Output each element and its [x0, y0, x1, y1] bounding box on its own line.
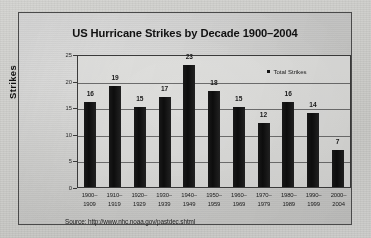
x-axis-labels: 1900–19091910–19191920–19291930–19391940… [77, 191, 351, 208]
y-axis-tick-mark [73, 82, 77, 83]
y-axis-tick-label: 25 [58, 52, 72, 58]
x-axis-tick-label: 1920–1929 [127, 191, 152, 208]
y-axis-label: Strikes [7, 65, 18, 99]
bar-cell: 14 [301, 56, 326, 187]
bar-cell: 16 [276, 56, 301, 187]
x-axis-tick-label: 1910–1919 [102, 191, 127, 208]
bar-value-label: 14 [309, 101, 316, 108]
legend-swatch-icon [267, 70, 270, 73]
y-axis-tick-mark [73, 135, 77, 136]
bar: 17 [159, 97, 171, 187]
bar-cell: 23 [177, 56, 202, 187]
x-axis-tick-label: 1980–1989 [276, 191, 301, 208]
bar: 15 [233, 107, 245, 187]
y-axis-tick-label: 5 [58, 158, 72, 164]
bar-cell: 15 [127, 56, 152, 187]
y-axis-tick-mark [73, 55, 77, 56]
bar-value-label: 17 [161, 85, 168, 92]
x-axis-tick-label: 1900–1909 [77, 191, 102, 208]
bar-value-label: 7 [336, 138, 340, 145]
y-axis-tick-mark [73, 108, 77, 109]
x-axis-tick-label: 1970–1979 [251, 191, 276, 208]
bar: 19 [109, 86, 121, 187]
bar-value-label: 15 [136, 95, 143, 102]
bar-value-label: 12 [260, 111, 267, 118]
bar-cell: 17 [152, 56, 177, 187]
chart-legend: Total Strikes [267, 68, 307, 75]
bar-value-label: 23 [186, 53, 193, 60]
bar-series-total-strikes: 161915172318151216147 [78, 56, 350, 187]
y-axis-tick-label: 15 [58, 105, 72, 111]
bar-value-label: 15 [235, 95, 242, 102]
bar: 16 [84, 102, 96, 187]
bar-value-label: 18 [210, 79, 217, 86]
plot-area: 161915172318151216147 [77, 55, 351, 188]
y-axis-tick-label: 20 [58, 79, 72, 85]
bar-cell: 12 [251, 56, 276, 187]
bar-value-label: 16 [285, 90, 292, 97]
bar-cell: 15 [226, 56, 251, 187]
x-axis-tick-label: 2000–2004 [326, 191, 351, 208]
bar-cell: 7 [325, 56, 350, 187]
source-caption: Source: http://www.nhc.noaa.gov/pastdec.… [65, 218, 195, 225]
bar-cell: 18 [202, 56, 227, 187]
bar: 15 [134, 107, 146, 187]
chart-title: US Hurricane Strikes by Decade 1900–2004 [19, 27, 351, 39]
x-axis-tick-label: 1930–1939 [152, 191, 177, 208]
y-axis-tick-mark [73, 161, 77, 162]
bar: 16 [282, 102, 294, 187]
legend-label-total-strikes: Total Strikes [273, 68, 306, 75]
x-axis-tick-label: 1990–1999 [301, 191, 326, 208]
y-axis-tick-label: 0 [58, 185, 72, 191]
y-axis-tick-mark [73, 188, 77, 189]
bar: 14 [307, 113, 319, 187]
x-axis-tick-label: 1950–1959 [202, 191, 227, 208]
bar-cell: 16 [78, 56, 103, 187]
bar-value-label: 19 [111, 74, 118, 81]
bar: 12 [258, 123, 270, 187]
chart-frame: US Hurricane Strikes by Decade 1900–2004… [18, 12, 352, 225]
x-axis-tick-label: 1960–1969 [226, 191, 251, 208]
bar: 23 [183, 65, 195, 187]
bar-cell: 19 [103, 56, 128, 187]
bar: 18 [208, 91, 220, 187]
bar: 7 [332, 150, 344, 187]
bar-value-label: 16 [87, 90, 94, 97]
x-axis-tick-label: 1940–1949 [177, 191, 202, 208]
y-axis-tick-label: 10 [58, 132, 72, 138]
